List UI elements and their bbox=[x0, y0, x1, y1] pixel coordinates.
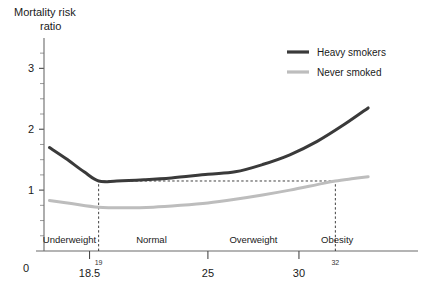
y-tick-label: 1 bbox=[28, 184, 34, 196]
origin-zero-label: 0 bbox=[23, 262, 29, 274]
chart-title-line1: Mortality risk bbox=[14, 6, 76, 18]
x-tick-label: 18.5 bbox=[79, 267, 100, 279]
series-line-heavy-smokers bbox=[49, 108, 368, 182]
x-tick-label: 30 bbox=[293, 267, 305, 279]
bmi-band-label: Normal bbox=[136, 234, 167, 245]
y-tick-label: 2 bbox=[28, 123, 34, 135]
chart-title: Mortality risk ratio bbox=[14, 6, 76, 32]
x-axis-major-ticks bbox=[90, 251, 299, 259]
legend-label: Never smoked bbox=[317, 67, 381, 78]
y-axis-tick-labels: 123 bbox=[28, 62, 34, 196]
reference-lines bbox=[99, 181, 336, 251]
bmi-band-labels: UnderweightNormalOverweightObesity bbox=[43, 234, 354, 245]
chart-canvas: Mortality risk ratio 123 18.52530 1932 U… bbox=[0, 0, 426, 299]
annotation-label: 32 bbox=[331, 259, 339, 266]
mortality-risk-chart: Mortality risk ratio 123 18.52530 1932 U… bbox=[0, 0, 426, 299]
x-axis-tick-labels: 18.52530 bbox=[79, 267, 305, 279]
annotation-label: 19 bbox=[95, 259, 103, 266]
series-lines bbox=[49, 108, 368, 208]
bmi-band-label: Overweight bbox=[229, 234, 277, 245]
bmi-band-label: Underweight bbox=[43, 234, 97, 245]
legend-label: Heavy smokers bbox=[317, 47, 386, 58]
x-tick-label: 25 bbox=[202, 267, 214, 279]
chart-title-line2: ratio bbox=[40, 20, 61, 32]
y-tick-label: 3 bbox=[28, 62, 34, 74]
annotation-labels: 1932 bbox=[95, 259, 340, 266]
y-axis-major-ticks bbox=[39, 68, 44, 190]
bmi-band-label: Obesity bbox=[321, 234, 353, 245]
chart-legend: Heavy smokersNever smoked bbox=[287, 47, 386, 78]
y-axis-minor-ticks bbox=[40, 53, 44, 236]
